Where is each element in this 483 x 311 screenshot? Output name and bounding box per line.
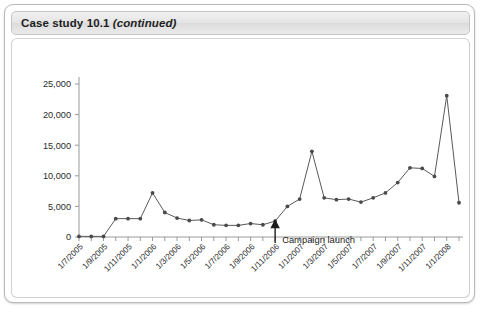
series-marker bbox=[175, 216, 179, 220]
case-study-title-prefix: Case study 10.1 bbox=[21, 17, 113, 29]
x-tick-label: 1/1/2008 bbox=[424, 242, 453, 271]
case-study-card: Case study 10.1 (continued) 05,00010,000… bbox=[4, 4, 475, 303]
y-axis: 05,00010,00015,00020,00025,000 bbox=[43, 77, 79, 242]
chart-panel: 05,00010,00015,00020,00025,000 1/7/20051… bbox=[11, 38, 470, 298]
series-marker bbox=[249, 222, 253, 226]
x-tick-label: 1/1/2007 bbox=[277, 242, 306, 271]
series-marker bbox=[445, 94, 449, 98]
series-marker bbox=[347, 197, 351, 201]
y-tick-label: 20,000 bbox=[43, 110, 71, 120]
series-marker bbox=[322, 196, 326, 200]
series-marker bbox=[457, 201, 461, 205]
page-title: Case study 10.1 (continued) bbox=[21, 17, 176, 29]
data-series bbox=[77, 94, 461, 239]
series-marker bbox=[224, 223, 228, 227]
x-tick-label: 1/5/2007 bbox=[326, 242, 355, 271]
series-marker bbox=[298, 197, 302, 201]
x-tick-label: 1/1/2006 bbox=[130, 242, 159, 271]
y-tick-label: 5,000 bbox=[48, 202, 71, 212]
y-tick-label: 15,000 bbox=[43, 141, 71, 151]
line-chart: 05,00010,00015,00020,00025,000 1/7/20051… bbox=[12, 39, 471, 299]
series-marker bbox=[200, 218, 204, 222]
series-marker bbox=[187, 219, 191, 223]
series-marker bbox=[102, 234, 106, 238]
series-marker bbox=[236, 223, 240, 227]
annotation-label: Campaign launch bbox=[282, 234, 355, 245]
series-line bbox=[79, 96, 459, 237]
y-tick-label: 10,000 bbox=[43, 171, 71, 181]
x-tick-label: 1/7/2005 bbox=[56, 242, 85, 271]
series-marker bbox=[151, 191, 155, 195]
series-marker bbox=[114, 217, 118, 221]
y-tick-label: 0 bbox=[66, 232, 71, 242]
series-marker bbox=[359, 200, 363, 204]
case-study-title-suffix: (continued) bbox=[113, 17, 177, 29]
series-marker bbox=[126, 217, 130, 221]
series-marker bbox=[335, 198, 339, 202]
series-marker bbox=[396, 181, 400, 185]
series-marker bbox=[285, 205, 289, 209]
y-tick-label: 25,000 bbox=[43, 79, 71, 89]
x-tick-label: 1/3/2006 bbox=[154, 242, 183, 271]
series-marker bbox=[138, 217, 142, 221]
x-tick-label: 1/7/2006 bbox=[203, 242, 232, 271]
series-marker bbox=[420, 167, 424, 171]
x-tick-label: 1/3/2007 bbox=[301, 242, 330, 271]
campaign-launch-annotation: Campaign launch bbox=[272, 221, 356, 246]
series-marker bbox=[89, 234, 93, 238]
case-study-header: Case study 10.1 (continued) bbox=[11, 11, 470, 35]
series-marker bbox=[371, 196, 375, 200]
series-marker bbox=[261, 223, 265, 227]
x-axis: 1/7/20051/9/20051/11/20051/1/20061/3/200… bbox=[56, 237, 463, 274]
x-tick-label: 1/7/2007 bbox=[350, 242, 379, 271]
series-marker bbox=[310, 149, 314, 153]
series-marker bbox=[384, 191, 388, 195]
series-marker bbox=[408, 166, 412, 170]
x-tick-label: 1/5/2006 bbox=[179, 242, 208, 271]
series-marker bbox=[77, 234, 81, 238]
series-marker bbox=[163, 211, 167, 215]
series-marker bbox=[212, 223, 216, 227]
series-marker bbox=[433, 175, 437, 179]
